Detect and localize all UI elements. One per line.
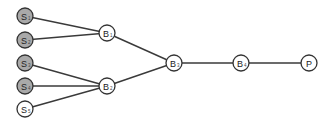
edge-b2-b3 [107,63,174,86]
node-label: B [170,59,176,69]
node-label: S [21,36,27,46]
node-label: S [21,82,27,92]
node-label: S [21,59,27,69]
node-s1: S1 [17,8,33,24]
node-label: S [21,12,27,22]
node-label: B [103,82,109,92]
node-s5: S5 [17,101,33,117]
node-label: B [237,59,243,69]
node-b3: B3 [166,55,182,71]
node-b1: B1 [99,25,115,41]
tree-diagram: S1S2S3S4S5B1B2B3B4P [0,0,333,126]
node-b4: B4 [233,55,249,71]
edge-s3-b2 [25,63,107,86]
node-label: B [103,29,109,39]
edge-s2-b1 [25,33,107,40]
edge-s1-b1 [25,16,107,33]
node-b2: B2 [99,78,115,94]
edge-s5-b2 [25,86,107,109]
node-p: P [301,55,317,71]
node-label: P [306,59,312,69]
edge-b1-b3 [107,33,174,63]
node-s4: S4 [17,78,33,94]
node-s3: S3 [17,55,33,71]
node-s2: S2 [17,32,33,48]
node-label: S [21,105,27,115]
